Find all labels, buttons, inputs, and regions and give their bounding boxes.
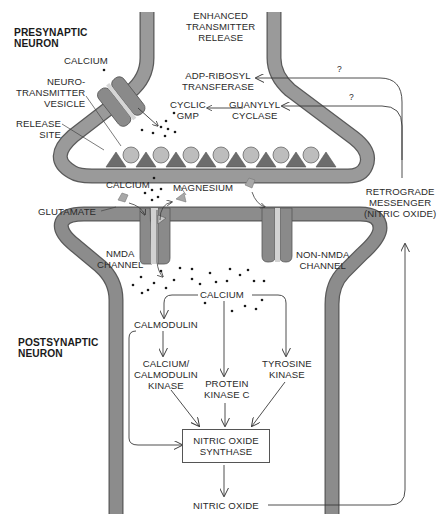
- adp-ribosyl-transferase-label: ADP-RIBOSYL TRANSFERASE: [182, 70, 254, 92]
- glutamate-label: GLUTAMATE: [38, 206, 96, 217]
- presynaptic-neuron-label: PRESYNAPTIC NEURON: [14, 27, 88, 49]
- camk-to-nos-arrow: [171, 390, 199, 426]
- cyclic-gmp-label: CYCLIC GMP: [170, 99, 206, 121]
- cleft-calcium-label: CALCIUM: [106, 179, 150, 190]
- nmda-channel: [140, 208, 170, 264]
- non-nmda-channel-label: NON-NMDA CHANNEL: [296, 249, 350, 271]
- postsynaptic-neuron-label: POSTSYNAPTIC NEURON: [18, 337, 98, 359]
- glutamate-non-nmda-arrow: [252, 192, 265, 207]
- calcium-to-tyrosine-arrow: [252, 295, 286, 356]
- calcium-to-calmodulin-arrow: [164, 295, 198, 318]
- postsynaptic-calcium-label: CALCIUM: [200, 289, 244, 300]
- retrograde-messenger-label: RETROGRADE MESSENGER (NITRIC OXIDE): [364, 186, 436, 219]
- presynaptic-calcium-label: CALCIUM: [64, 55, 108, 66]
- enhanced-release-label: ENHANCED TRANSMITTER RELEASE: [186, 10, 255, 43]
- protein-kinase-c-label: PROTEIN KINASE C: [204, 378, 250, 400]
- postsynaptic-calcium-ions: [132, 267, 266, 313]
- nmda-channel-label: NMDA CHANNEL: [97, 248, 144, 270]
- magnesium-ion: [176, 193, 186, 202]
- calcium-influx-arrow: [138, 108, 158, 126]
- question-mark-adp: ?: [337, 64, 342, 75]
- magnesium-label: MAGNESIUM: [173, 182, 233, 193]
- cam-kinase-label: CALCIUM/ CALMODULIN KINASE: [134, 358, 198, 391]
- question-mark-guanylyl: ?: [349, 92, 354, 103]
- calmodulin-label: CALMODULIN: [134, 319, 198, 330]
- tyrosine-kinase-label: TYROSINE KINASE: [262, 358, 312, 380]
- neurotransmitter-vesicles: [123, 147, 319, 163]
- tyrosine-to-nos-arrow: [252, 382, 285, 426]
- release-site-label: RELEASE SITE: [16, 118, 61, 140]
- guanylyl-cyclase-label: GUANYLYL CYCLASE: [229, 99, 280, 121]
- nitric-oxide-synthase-box: NITRIC OXIDE SYNTHASE: [182, 429, 270, 463]
- nitric-oxide-synthase-label: NITRIC OXIDE SYNTHASE: [183, 435, 269, 457]
- non-nmda-channel: [262, 208, 292, 262]
- nitric-oxide-label: NITRIC OXIDE: [193, 500, 259, 511]
- vesicle-label: NEURO- TRANSMITTER VESICLE: [16, 76, 85, 109]
